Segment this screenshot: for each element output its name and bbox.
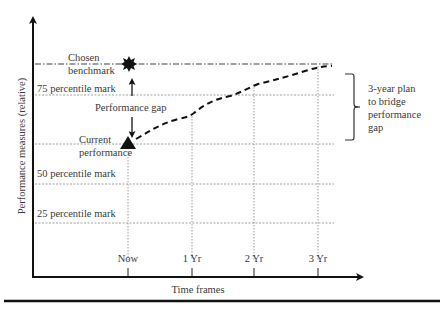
- tick-label-3yr: 3 Yr: [309, 253, 328, 264]
- p25-label: 25 percentile mark: [37, 208, 116, 219]
- current-label-line2: performance: [79, 147, 132, 158]
- tick-label-2yr: 2 Yr: [245, 253, 264, 264]
- benchmark-label-line2: benchmark: [68, 65, 115, 76]
- p75-label: 75 percentile mark: [37, 83, 116, 94]
- gap-label: Performance gap: [95, 102, 166, 113]
- y-axis-label: Performance measures (relative): [16, 77, 28, 214]
- performance-gap-diagram: Chosen benchmark 75 percentile mark Perf…: [0, 0, 442, 310]
- benchmark-starburst-icon: [121, 56, 137, 72]
- p50-label: 50 percentile mark: [37, 168, 116, 179]
- tick-label-1yr: 1 Yr: [183, 253, 202, 264]
- brace-label-line1: 3-year plan: [368, 83, 416, 94]
- current-label-line1: Current: [79, 134, 111, 145]
- benchmark-label-line1: Chosen: [68, 52, 100, 63]
- x-axis-label: Time frames: [172, 284, 225, 295]
- tick-label-now: Now: [118, 253, 139, 264]
- brace-label-line3: performance: [368, 109, 421, 120]
- brace-label-line4: gap: [368, 122, 383, 133]
- brace-label-line2: to bridge: [368, 96, 406, 107]
